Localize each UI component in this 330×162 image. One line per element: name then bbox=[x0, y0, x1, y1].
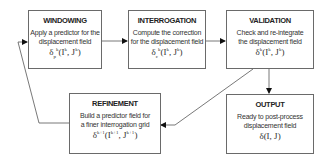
node-formula: δck(Ik, Jk) bbox=[129, 47, 205, 59]
node-title: REFINEMENT bbox=[70, 99, 160, 108]
desc-line: displacement field bbox=[227, 122, 313, 131]
node-title: WINDOWING bbox=[29, 16, 101, 25]
node-title: INTERROGATION bbox=[129, 16, 205, 25]
node-output: OUTPUT Ready to post-process displacemen… bbox=[226, 94, 314, 154]
desc-line: Compute the correction bbox=[129, 29, 205, 38]
node-title: OUTPUT bbox=[227, 100, 313, 109]
node-formula: δ(I, J) bbox=[227, 131, 313, 143]
node-interrogation: INTERROGATION Compute the correction for… bbox=[128, 10, 206, 69]
node-description: Ready to post-process displacement field bbox=[227, 113, 313, 130]
node-description: Compute the correction for the displacem… bbox=[129, 29, 205, 46]
node-description: Build a predictor field for a finer inte… bbox=[70, 112, 160, 129]
desc-line: a finer interrogation grid bbox=[70, 121, 160, 130]
node-description: Check and re-integrate the displacement … bbox=[227, 29, 313, 46]
desc-line: displacement field bbox=[29, 38, 101, 47]
desc-line: Check and re-integrate bbox=[227, 29, 313, 38]
node-formula: δk+1(Ik+1, Jk+1) bbox=[70, 130, 160, 142]
desc-line: Apply a predictor for the bbox=[29, 29, 101, 38]
desc-line: for the displacement field bbox=[129, 38, 205, 47]
desc-line: Build a predictor field for bbox=[70, 112, 160, 121]
node-validation: VALIDATION Check and re-integrate the di… bbox=[226, 10, 314, 69]
desc-line: the displacement field bbox=[227, 38, 313, 47]
node-title: VALIDATION bbox=[227, 16, 313, 25]
desc-line: Ready to post-process bbox=[227, 113, 313, 122]
node-refinement: REFINEMENT Build a predictor field for a… bbox=[69, 93, 161, 154]
node-formula: δpk(Ik, Jk) bbox=[29, 47, 101, 59]
node-windowing: WINDOWING Apply a predictor for the disp… bbox=[28, 10, 102, 69]
node-description: Apply a predictor for the displacement f… bbox=[29, 29, 101, 46]
node-formula: δk(Ik, Jk) bbox=[227, 47, 313, 59]
